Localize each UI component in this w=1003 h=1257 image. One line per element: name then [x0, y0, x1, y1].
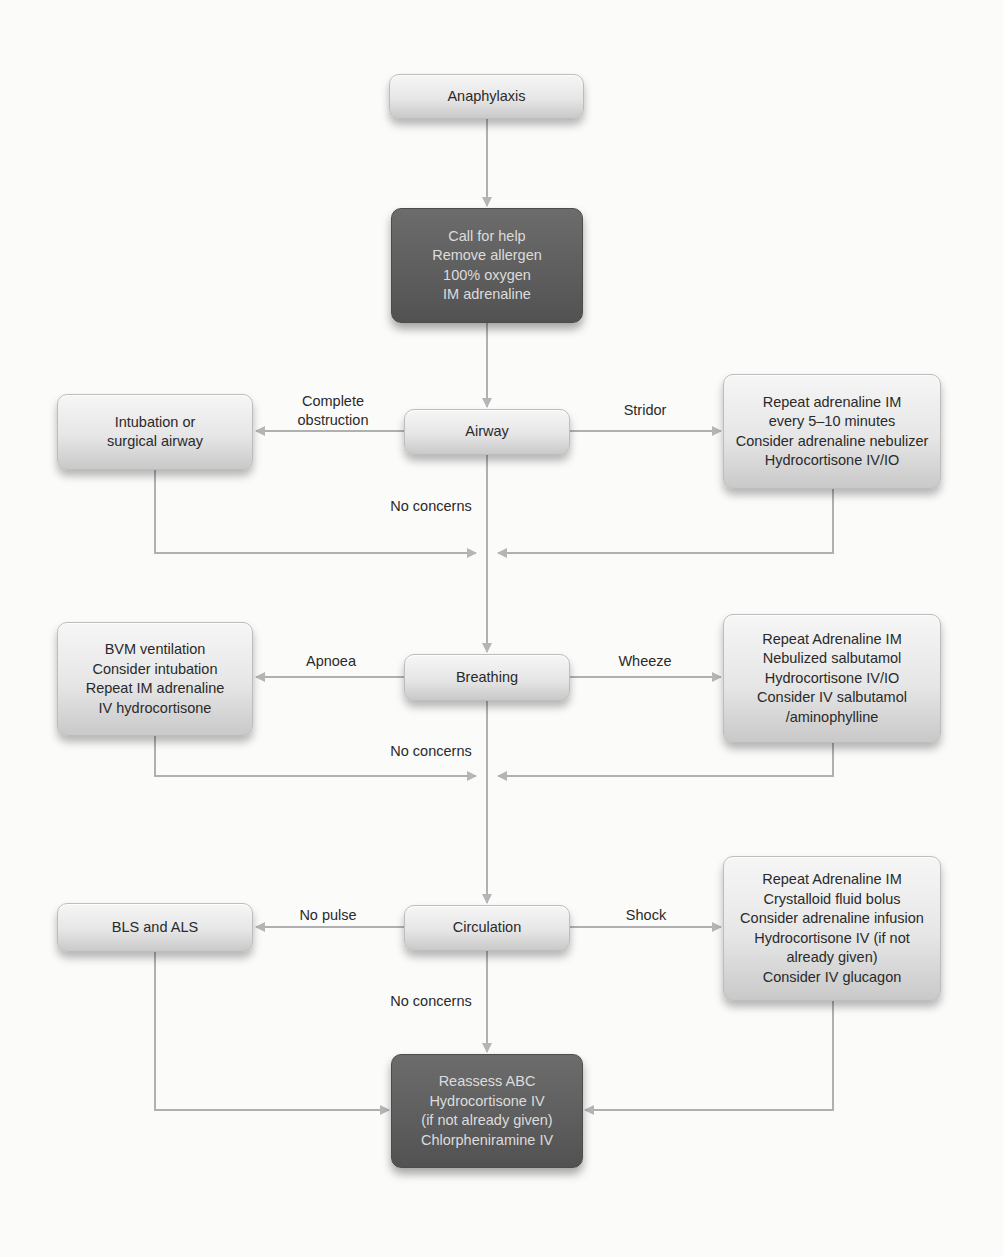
node-text: Nebulized salbutamol — [763, 649, 902, 669]
node-text: already given) — [786, 948, 877, 968]
node-text: Consider adrenaline infusion — [740, 909, 924, 929]
node-text: Crystalloid fluid bolus — [763, 890, 900, 910]
node-text: BVM ventilation — [105, 640, 206, 660]
node-text: Airway — [465, 422, 509, 442]
edge-label-stridor: Stridor — [615, 401, 675, 420]
node-text: Consider IV salbutamol — [757, 688, 907, 708]
edge-label-apnoea: Apnoea — [296, 652, 366, 671]
edge-stridor-merge — [498, 489, 833, 553]
node-initial-actions: Call for help Remove allergen 100% oxyge… — [391, 208, 583, 323]
node-text: Repeat IM adrenaline — [86, 679, 225, 699]
node-text: Repeat adrenaline IM — [763, 393, 902, 413]
node-text: Hydrocortisone IV (if not — [754, 929, 910, 949]
node-apnoea-treatment: BVM ventilation Consider intubation Repe… — [57, 622, 253, 736]
edge-wheeze-merge — [498, 743, 833, 776]
node-text: Repeat Adrenaline IM — [762, 630, 901, 650]
node-wheeze-treatment: Repeat Adrenaline IM Nebulized salbutamo… — [723, 614, 941, 743]
edge-label-line: Complete — [278, 392, 388, 411]
node-text: surgical airway — [107, 432, 203, 452]
node-anaphylaxis: Anaphylaxis — [389, 74, 584, 119]
node-text: Breathing — [456, 668, 518, 688]
node-text: Hydrocortisone IV/IO — [765, 451, 900, 471]
node-bls-als: BLS and ALS — [57, 903, 253, 952]
node-text: Anaphylaxis — [447, 87, 525, 107]
node-text: /aminophylline — [786, 708, 879, 728]
edge-label-complete-obstruction: Complete obstruction — [278, 392, 388, 430]
node-text: Intubation or — [115, 413, 196, 433]
node-text: Remove allergen — [432, 246, 542, 266]
node-shock-treatment: Repeat Adrenaline IM Crystalloid fluid b… — [723, 856, 941, 1001]
node-text: IM adrenaline — [443, 285, 531, 305]
edge-label-circulation-no-concerns: No concerns — [386, 992, 476, 1011]
node-reassess: Reassess ABC Hydrocortisone IV (if not a… — [391, 1054, 583, 1168]
node-text: every 5–10 minutes — [769, 412, 896, 432]
edge-label-line: obstruction — [278, 411, 388, 430]
node-text: Consider IV glucagon — [763, 968, 902, 988]
node-text: BLS and ALS — [112, 918, 198, 938]
node-stridor-treatment: Repeat adrenaline IM every 5–10 minutes … — [723, 374, 941, 489]
node-circulation: Circulation — [404, 905, 570, 951]
node-text: Repeat Adrenaline IM — [762, 870, 901, 890]
node-breathing: Breathing — [404, 654, 570, 701]
edge-label-shock: Shock — [620, 906, 672, 925]
node-text: (if not already given) — [421, 1111, 552, 1131]
node-text: Hydrocortisone IV — [429, 1092, 544, 1112]
node-text: Chlorpheniramine IV — [421, 1131, 553, 1151]
node-text: IV hydrocortisone — [99, 699, 212, 719]
node-airway: Airway — [404, 409, 570, 455]
node-text: Hydrocortisone IV/IO — [765, 669, 900, 689]
node-text: Consider adrenaline nebulizer — [736, 432, 929, 452]
node-text: Reassess ABC — [439, 1072, 536, 1092]
edge-label-airway-no-concerns: No concerns — [386, 497, 476, 516]
edge-label-wheeze: Wheeze — [612, 652, 678, 671]
edge-label-breathing-no-concerns: No concerns — [386, 742, 476, 761]
node-text: Circulation — [453, 918, 522, 938]
edge-shock-to-reassess — [585, 1001, 833, 1110]
node-text: Call for help — [448, 227, 525, 247]
node-text: 100% oxygen — [443, 266, 531, 286]
edge-nopulse-to-reassess — [155, 952, 389, 1110]
edge-label-no-pulse: No pulse — [293, 906, 363, 925]
node-text: Consider intubation — [93, 660, 218, 680]
node-intubation: Intubation or surgical airway — [57, 394, 253, 470]
